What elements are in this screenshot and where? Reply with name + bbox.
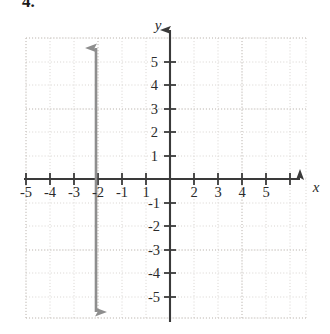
y-tick-label: 1: [151, 148, 158, 164]
x-tick-label: 2: [190, 184, 197, 200]
graph-figure: 4.: [0, 0, 330, 334]
x-tick-label: 5: [262, 184, 269, 200]
x-tick-labels: -5 -4 -3 -2 -1 1 2 3 4 5: [20, 184, 270, 200]
y-tick-label: 2: [151, 124, 158, 140]
x-tick-label: -4: [44, 184, 57, 200]
y-tick-label: -4: [148, 265, 161, 281]
y-tick-label: -1: [148, 195, 160, 211]
y-tick-label: -5: [148, 289, 160, 305]
x-tick-label: -3: [68, 184, 80, 200]
y-axis-label: y: [153, 17, 162, 33]
x-tick-label: -1: [116, 184, 128, 200]
x-tick-label: 3: [214, 184, 221, 200]
x-tick-label: -2: [92, 184, 104, 200]
y-tick-label: 4: [151, 77, 159, 93]
axes: [24, 30, 300, 322]
coordinate-plane: -5 -4 -3 -2 -1 1 2 3 4 5 5 4 3 2 1 -1 -2…: [0, 0, 330, 334]
y-tick-label: -2: [148, 218, 160, 234]
x-tick-label: 4: [238, 184, 246, 200]
x-tick-label: -5: [20, 184, 32, 200]
y-tick-label: 3: [151, 101, 158, 117]
y-tick-label: -3: [148, 242, 160, 258]
x-axis-label: x: [312, 179, 320, 195]
y-tick-label: 5: [151, 54, 158, 70]
